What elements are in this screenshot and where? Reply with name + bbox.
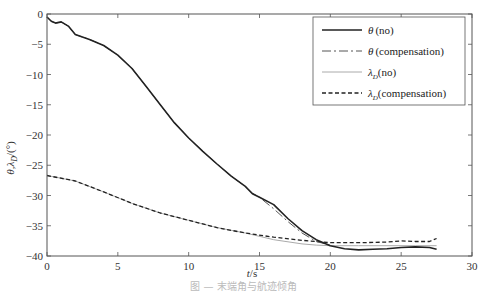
svg-text:θ(compensation): θ(compensation) xyxy=(368,45,444,58)
x-tick-label: 30 xyxy=(467,260,479,272)
y-tick-label: −40 xyxy=(26,250,44,262)
y-axis-title: θ,λD/(°) xyxy=(4,141,19,175)
svg-text:θ,λD/(°): θ,λD/(°) xyxy=(4,141,19,175)
series-line xyxy=(47,176,437,246)
y-tick-label: −25 xyxy=(26,159,44,171)
x-tick-label: 20 xyxy=(325,260,337,272)
figure-caption: 图 — 末端角与航迹倾角 xyxy=(0,278,487,293)
y-tick-label: −35 xyxy=(26,220,44,232)
x-tick-label: 25 xyxy=(396,260,408,272)
y-tick-label: 0 xyxy=(38,8,44,20)
svg-text:θ(no): θ(no) xyxy=(368,24,394,37)
y-tick-labels: 0−5−10−15−20−25−30−35−40 xyxy=(26,8,44,262)
x-tick-label: 5 xyxy=(115,260,121,272)
line-chart: 051015202530 0−5−10−15−20−25−30−35−40 t/… xyxy=(0,0,487,294)
y-tick-label: −20 xyxy=(26,129,44,141)
x-tick-labels: 051015202530 xyxy=(44,260,478,272)
series-line xyxy=(47,17,330,245)
legend: θ(no) θ(compensation) λD(no) λD(compensa… xyxy=(313,17,465,105)
x-tick-label: 10 xyxy=(183,260,195,272)
y-tick-label: −10 xyxy=(26,69,44,81)
series-line xyxy=(47,176,437,243)
y-tick-label: −15 xyxy=(26,99,44,111)
x-tick-label: 0 xyxy=(44,260,50,272)
y-tick-label: −30 xyxy=(26,190,44,202)
y-tick-label: −5 xyxy=(31,38,43,50)
